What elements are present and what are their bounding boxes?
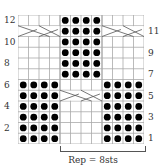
row-label-11: 11: [148, 26, 159, 36]
purl-dot: [62, 28, 69, 35]
purl-dot: [114, 81, 121, 88]
purl-dot: [135, 124, 142, 131]
purl-dot: [125, 135, 132, 142]
repeat-bracket: [60, 146, 146, 152]
purl-dot: [125, 103, 132, 110]
purl-dot: [51, 103, 58, 110]
row-label-7: 7: [148, 69, 154, 79]
purl-dot: [51, 114, 58, 121]
purl-dot: [104, 114, 111, 121]
purl-dot: [62, 38, 69, 45]
purl-dot: [104, 81, 111, 88]
purl-dot: [125, 114, 132, 121]
purl-dot: [41, 114, 48, 121]
purl-dot: [51, 124, 58, 131]
purl-dot: [20, 135, 27, 142]
purl-dot: [20, 114, 27, 121]
purl-dot: [93, 60, 100, 67]
row-label-3: 3: [148, 112, 154, 122]
purl-dot: [51, 135, 58, 142]
cable-cross-icon: [102, 26, 144, 37]
row-label-9: 9: [148, 48, 154, 58]
purl-dot: [51, 92, 58, 99]
cable-cross-icon: [60, 90, 102, 101]
purl-dot: [114, 103, 121, 110]
row-label-1: 1: [148, 133, 154, 143]
purl-dot: [72, 28, 79, 35]
purl-dot: [93, 71, 100, 78]
purl-dot: [114, 124, 121, 131]
purl-dot: [41, 81, 48, 88]
purl-dot: [104, 135, 111, 142]
purl-dot: [41, 135, 48, 142]
purl-dot: [20, 103, 27, 110]
row-label-8: 8: [4, 58, 10, 68]
row-label-2: 2: [4, 123, 10, 133]
purl-dot: [104, 92, 111, 99]
purl-dot: [72, 60, 79, 67]
knitting-chart-grid: [18, 15, 144, 144]
row-label-6: 6: [4, 80, 10, 90]
purl-dot: [93, 38, 100, 45]
purl-dot: [62, 60, 69, 67]
row-label-4: 4: [4, 101, 10, 111]
purl-dot: [72, 49, 79, 56]
purl-dot: [125, 92, 132, 99]
purl-dot: [41, 124, 48, 131]
purl-dot: [104, 103, 111, 110]
purl-dot: [20, 124, 27, 131]
purl-dot: [114, 92, 121, 99]
row-label-10: 10: [4, 37, 15, 47]
purl-dot: [93, 49, 100, 56]
purl-dot: [83, 38, 90, 45]
purl-dot: [62, 17, 69, 24]
purl-dot: [30, 92, 37, 99]
purl-dot: [30, 103, 37, 110]
purl-dot: [41, 103, 48, 110]
purl-dot: [135, 135, 142, 142]
purl-dot: [93, 28, 100, 35]
row-label-12: 12: [4, 15, 15, 25]
purl-dot: [51, 81, 58, 88]
purl-dot: [114, 135, 121, 142]
purl-dot: [114, 114, 121, 121]
purl-dot: [20, 81, 27, 88]
purl-dot: [62, 71, 69, 78]
row-label-5: 5: [148, 91, 154, 101]
purl-dot: [83, 71, 90, 78]
purl-dot: [135, 103, 142, 110]
purl-dot: [125, 124, 132, 131]
purl-dot: [72, 17, 79, 24]
purl-dot: [41, 92, 48, 99]
purl-dot: [125, 81, 132, 88]
purl-dot: [83, 49, 90, 56]
purl-dot: [135, 114, 142, 121]
purl-dot: [20, 92, 27, 99]
purl-dot: [83, 28, 90, 35]
purl-dot: [72, 38, 79, 45]
purl-dot: [30, 81, 37, 88]
purl-dot: [93, 17, 100, 24]
repeat-label: Rep = 8sts: [0, 155, 164, 165]
cable-cross-icon: [18, 26, 60, 37]
purl-dot: [72, 71, 79, 78]
purl-dot: [30, 114, 37, 121]
purl-dot: [62, 49, 69, 56]
purl-dot: [83, 17, 90, 24]
purl-dot: [30, 124, 37, 131]
purl-dot: [30, 135, 37, 142]
purl-dot: [135, 81, 142, 88]
purl-dot: [135, 92, 142, 99]
purl-dot: [104, 124, 111, 131]
purl-dot: [83, 60, 90, 67]
